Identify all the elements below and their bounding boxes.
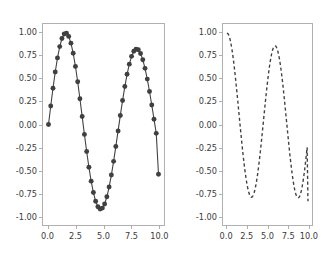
- data-marker: [113, 144, 118, 149]
- y-tick-label: -0.75: [4, 190, 37, 198]
- x-tick-label: 5.0: [261, 232, 274, 240]
- y-tick-label: 1.00: [184, 28, 217, 36]
- data-marker: [80, 114, 85, 119]
- x-tick-label: 2.5: [240, 232, 253, 240]
- data-marker: [48, 104, 53, 109]
- y-tick-mark: [39, 101, 42, 102]
- data-marker: [71, 51, 76, 56]
- y-tick-mark: [39, 125, 42, 126]
- x-tick-mark: [268, 226, 269, 229]
- matplotlib-figure: -1.00-0.75-0.50-0.250.000.250.500.751.00…: [0, 0, 331, 254]
- right-subplot-axes: [222, 23, 313, 226]
- y-tick-mark: [219, 125, 222, 126]
- x-tick-mark: [131, 226, 132, 229]
- y-tick-label: -0.25: [4, 143, 37, 151]
- y-tick-label: 0.00: [4, 120, 37, 128]
- data-marker: [84, 149, 89, 154]
- data-marker: [152, 117, 157, 122]
- x-tick-label: 10.0: [300, 232, 318, 240]
- data-marker: [149, 103, 154, 108]
- x-tick-label: 5.0: [97, 232, 110, 240]
- y-tick-label: -1.00: [4, 213, 37, 221]
- data-marker: [86, 165, 91, 170]
- y-tick-label: 0.00: [184, 120, 217, 128]
- data-marker: [125, 72, 130, 77]
- data-marker: [104, 194, 109, 199]
- data-marker: [107, 185, 112, 190]
- data-marker: [46, 122, 51, 127]
- y-tick-label: -0.75: [184, 190, 217, 198]
- data-marker: [66, 34, 71, 39]
- x-tick-mark: [76, 226, 77, 229]
- data-marker: [143, 66, 148, 71]
- data-marker: [73, 64, 78, 69]
- y-tick-mark: [39, 194, 42, 195]
- y-tick-mark: [39, 148, 42, 149]
- x-tick-mark: [104, 226, 105, 229]
- y-tick-mark: [39, 55, 42, 56]
- x-tick-mark: [309, 226, 310, 229]
- x-tick-mark: [247, 226, 248, 229]
- data-marker: [154, 131, 159, 136]
- y-tick-label: -1.00: [184, 213, 217, 221]
- data-marker: [60, 36, 65, 41]
- x-tick-mark: [48, 226, 49, 229]
- data-marker: [127, 62, 132, 67]
- y-tick-mark: [219, 101, 222, 102]
- x-tick-label: 10.0: [150, 232, 168, 240]
- x-tick-label: 0.0: [41, 232, 54, 240]
- data-marker: [118, 113, 123, 118]
- data-marker: [77, 96, 82, 101]
- data-marker: [51, 86, 56, 91]
- data-marker: [145, 77, 150, 82]
- x-tick-label: 7.5: [282, 232, 295, 240]
- left-subplot-axes: [42, 23, 165, 226]
- data-marker: [111, 159, 116, 164]
- y-tick-label: 0.25: [184, 97, 217, 105]
- y-tick-mark: [219, 78, 222, 79]
- y-tick-mark: [219, 171, 222, 172]
- right-subplot-plotarea: [223, 24, 312, 225]
- y-tick-mark: [219, 148, 222, 149]
- y-tick-mark: [219, 194, 222, 195]
- data-marker: [82, 132, 87, 137]
- y-tick-mark: [39, 32, 42, 33]
- x-tick-label: 2.5: [69, 232, 82, 240]
- data-marker: [102, 201, 107, 206]
- data-marker: [109, 173, 114, 178]
- data-marker: [147, 89, 152, 94]
- y-tick-label: -0.25: [184, 143, 217, 151]
- x-tick-mark: [226, 226, 227, 229]
- data-marker: [75, 79, 80, 84]
- y-tick-mark: [219, 217, 222, 218]
- data-marker: [55, 55, 60, 60]
- y-tick-label: -0.50: [184, 167, 217, 175]
- y-tick-mark: [219, 55, 222, 56]
- data-marker: [53, 70, 58, 75]
- data-marker: [120, 98, 125, 103]
- x-tick-label: 0.0: [220, 232, 233, 240]
- data-marker: [138, 51, 143, 56]
- y-tick-label: 1.00: [4, 28, 37, 36]
- y-tick-mark: [39, 217, 42, 218]
- data-marker: [116, 128, 121, 133]
- data-marker: [93, 199, 98, 204]
- x-tick-mark: [159, 226, 160, 229]
- data-marker: [140, 57, 145, 62]
- x-tick-mark: [288, 226, 289, 229]
- data-marker: [68, 41, 73, 46]
- data-line: [227, 33, 308, 201]
- y-tick-mark: [39, 78, 42, 79]
- x-tick-label: 7.5: [125, 232, 138, 240]
- data-marker: [129, 54, 134, 59]
- y-tick-label: -0.50: [4, 167, 37, 175]
- data-marker: [91, 190, 96, 195]
- data-marker: [89, 179, 94, 184]
- y-tick-label: 0.75: [184, 51, 217, 59]
- y-tick-label: 0.75: [4, 51, 37, 59]
- y-tick-label: 0.25: [4, 97, 37, 105]
- y-tick-mark: [219, 32, 222, 33]
- data-marker: [122, 84, 127, 89]
- left-subplot-plotarea: [43, 24, 164, 225]
- y-tick-label: 0.50: [184, 74, 217, 82]
